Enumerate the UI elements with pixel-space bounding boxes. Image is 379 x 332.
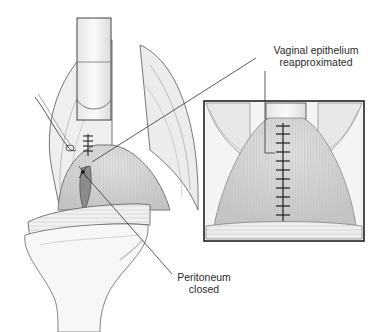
main-view bbox=[25, 18, 198, 332]
label-line: Vaginal epithelium bbox=[256, 44, 376, 56]
surgical-illustration: Vaginal epithelium reapproximated Perito… bbox=[0, 0, 379, 332]
label-line: closed bbox=[174, 283, 234, 295]
label-line: reapproximated bbox=[256, 56, 376, 68]
inset-view bbox=[204, 101, 364, 241]
label-peritoneum: Peritoneum closed bbox=[174, 271, 234, 295]
label-line: Peritoneum bbox=[174, 271, 234, 283]
label-vaginal-epithelium: Vaginal epithelium reapproximated bbox=[256, 44, 376, 68]
